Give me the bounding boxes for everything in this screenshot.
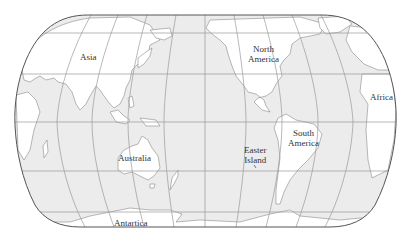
label-south-america-line1: South	[288, 128, 319, 138]
label-africa: Africa	[370, 92, 393, 102]
label-asia: Asia	[80, 52, 97, 62]
label-south-america: South America	[288, 128, 319, 148]
tasmania-landmass	[150, 184, 155, 188]
ocean	[0, 0, 410, 242]
label-north-america: North America	[248, 44, 279, 64]
world-map	[0, 0, 410, 242]
label-easter-island: Easter Island	[244, 145, 267, 165]
label-easter-island-line2: Island	[244, 155, 267, 165]
label-australia: Australia	[118, 153, 151, 163]
label-north-america-line1: North	[248, 44, 279, 54]
label-south-america-line2: America	[288, 138, 319, 148]
label-antarctica: Antartica	[114, 218, 147, 228]
label-easter-island-line1: Easter	[244, 145, 267, 155]
label-north-america-line2: America	[248, 54, 279, 64]
